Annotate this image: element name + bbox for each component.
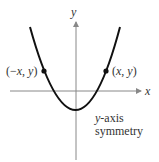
symmetry-diagram: y x (−x, y) (x, y) y-axis symmetry bbox=[0, 0, 159, 162]
caption-line1: y-axis bbox=[94, 111, 124, 125]
caption-line2: symmetry bbox=[95, 124, 143, 138]
point-left bbox=[41, 68, 46, 73]
y-axis-label: y bbox=[70, 5, 77, 19]
point-left-label: (−x, y) bbox=[6, 64, 37, 78]
point-right-label: (x, y) bbox=[112, 64, 137, 78]
x-axis-label: x bbox=[144, 84, 151, 98]
point-right bbox=[103, 68, 108, 73]
